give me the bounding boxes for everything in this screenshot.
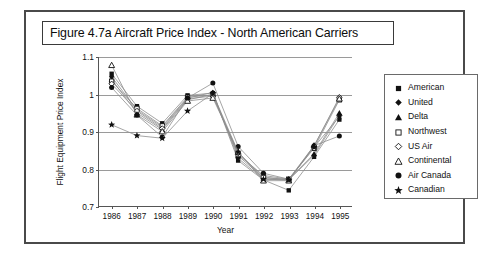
filled-circle-marker	[109, 85, 114, 90]
star-marker	[392, 183, 405, 196]
series-plot	[99, 57, 352, 206]
x-axis-title: Year	[217, 225, 234, 235]
legend-label: Northwest	[408, 126, 447, 136]
x-tick-label: 1994	[306, 212, 324, 221]
legend-label: Continental	[408, 155, 451, 165]
star-marker	[184, 107, 191, 114]
filled-circle-marker	[261, 171, 266, 176]
filled-diamond-marker	[395, 100, 402, 107]
legend-label: United	[408, 97, 433, 107]
filled-circle-marker	[392, 168, 405, 181]
x-tick-mark	[315, 206, 316, 209]
series-line	[112, 74, 340, 191]
legend-item-continental[interactable]: Continental	[392, 153, 477, 168]
y-tick-label: 0.8	[82, 165, 94, 175]
x-tick-label: 1991	[230, 212, 248, 221]
y-axis-title: Flight Equipment Price Index	[55, 57, 69, 207]
legend-item-northwest[interactable]: Northwest	[392, 124, 477, 139]
x-tick-mark	[213, 206, 214, 209]
series-line	[112, 84, 340, 180]
series-canadian	[108, 90, 343, 183]
filled-square-marker	[392, 81, 405, 94]
series-american	[109, 72, 341, 193]
y-tick-mark	[96, 207, 99, 208]
x-tick-label: 1986	[103, 212, 121, 221]
filled-triangle-marker	[395, 114, 402, 120]
series-us-air	[109, 81, 342, 183]
open-diamond-marker	[392, 139, 405, 152]
x-tick-label: 1990	[204, 212, 222, 221]
x-tick-label: 1992	[255, 212, 273, 221]
legend-item-air-canada[interactable]: Air Canada	[392, 168, 477, 183]
open-triangle-marker	[395, 158, 402, 164]
filled-circle-marker	[210, 81, 215, 86]
y-tick-label: 0.9	[82, 127, 94, 137]
y-tick-label: 0.7	[82, 202, 94, 212]
x-tick-mark	[188, 206, 189, 209]
star-marker	[133, 132, 140, 139]
x-tick-label: 1993	[280, 212, 298, 221]
y-tick-label: 1	[89, 90, 94, 100]
legend-item-canadian[interactable]: Canadian	[392, 182, 477, 197]
open-square-marker	[396, 129, 401, 134]
legend-label: US Air	[408, 141, 432, 151]
x-tick-label: 1989	[179, 212, 197, 221]
legend-label: Air Canada	[408, 170, 451, 180]
x-tick-label: 1995	[331, 212, 349, 221]
open-triangle-marker	[392, 154, 405, 167]
x-tick-label: 1988	[153, 212, 171, 221]
legend-label: Delta	[408, 111, 428, 121]
x-tick-mark	[264, 206, 265, 209]
filled-circle-marker	[185, 95, 190, 100]
filled-square-marker	[396, 86, 401, 91]
x-tick-mark	[112, 206, 113, 209]
star-marker	[108, 121, 115, 128]
legend-item-united[interactable]: United	[392, 95, 477, 110]
legend-item-delta[interactable]: Delta	[392, 109, 477, 124]
open-square-marker	[392, 125, 405, 138]
filled-triangle-marker	[392, 110, 405, 123]
series-line	[112, 94, 340, 180]
legend-label: Canadian	[408, 184, 445, 194]
y-tick-label: 1.1	[82, 52, 94, 62]
legend: AmericanUnitedDeltaNorthwestUS AirContin…	[384, 74, 478, 199]
legend-item-us-air[interactable]: US Air	[392, 138, 477, 153]
filled-circle-marker	[134, 113, 139, 118]
filled-square-marker	[287, 188, 291, 192]
x-tick-mark	[137, 206, 138, 209]
series-line	[112, 77, 340, 180]
x-tick-mark	[239, 206, 240, 209]
legend-label: American	[408, 82, 444, 92]
plot-area: Flight Equipment Price Index 0.70.80.911…	[98, 57, 352, 207]
open-diamond-marker	[395, 143, 402, 150]
open-triangle-marker	[109, 62, 115, 67]
figure-title: Figure 4.7a Aircraft Price Index - North…	[50, 26, 358, 40]
x-tick-mark	[340, 206, 341, 209]
filled-diamond-marker	[392, 95, 405, 108]
star-marker	[394, 186, 402, 194]
x-tick-label: 1987	[128, 212, 146, 221]
x-tick-mark	[290, 206, 291, 209]
filled-circle-marker	[337, 133, 342, 138]
filled-circle-marker	[396, 173, 402, 179]
series-line	[112, 83, 340, 179]
legend-item-american[interactable]: American	[392, 80, 477, 95]
figure-title-box: Figure 4.7a Aircraft Price Index - North…	[42, 21, 394, 45]
figure-frame: Figure 4.7a Aircraft Price Index - North…	[24, 10, 465, 244]
x-tick-mark	[163, 206, 164, 209]
